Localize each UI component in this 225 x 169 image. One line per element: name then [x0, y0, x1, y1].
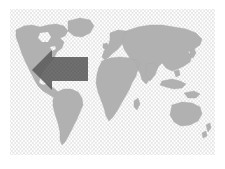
image-canvas — [0, 0, 225, 169]
world-map-graphic — [10, 9, 215, 155]
world-map-panel — [10, 9, 215, 155]
